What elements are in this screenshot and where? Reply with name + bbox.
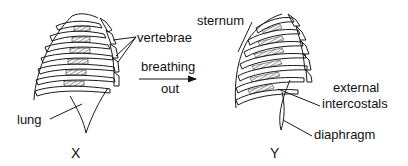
vertebrae-y [288, 14, 312, 82]
ribcage-y [235, 14, 320, 136]
label-external-intercostals-line1: external [333, 81, 379, 94]
figure-label-x: X [71, 146, 80, 160]
label-transition-line1: breathing [141, 60, 195, 73]
figure-label-y: Y [270, 146, 279, 160]
label-vertebrae: vertebrae [137, 31, 192, 44]
intercostals-x [64, 26, 90, 86]
label-transition-line2: out [161, 82, 179, 95]
label-external-intercostals-line2: intercostals [322, 97, 388, 110]
lung-shape [70, 88, 108, 133]
label-lung: lung [17, 113, 42, 126]
label-diaphragm: diaphragm [314, 128, 375, 141]
vertebrae-x [100, 18, 119, 86]
label-sternum: sternum [197, 14, 244, 27]
ribcage-x [34, 14, 136, 133]
